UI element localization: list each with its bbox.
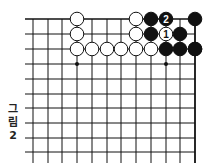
caption-char-1: 그 bbox=[6, 103, 20, 116]
white-stone: 1 bbox=[159, 27, 173, 41]
caption-char-3: 2 bbox=[6, 129, 20, 142]
white-stone bbox=[100, 42, 114, 56]
black-stone: 2 bbox=[159, 12, 173, 26]
stone-circle bbox=[129, 12, 143, 26]
white-stone bbox=[114, 42, 128, 56]
black-stone bbox=[144, 27, 158, 41]
move-number: 1 bbox=[163, 29, 169, 40]
stone-circle bbox=[70, 42, 84, 56]
star-point bbox=[164, 62, 168, 66]
stone-circle bbox=[85, 42, 99, 56]
white-stone bbox=[70, 27, 84, 41]
white-stone bbox=[70, 42, 84, 56]
stone-circle bbox=[173, 42, 187, 56]
figure-caption: 그 림 2 bbox=[6, 103, 20, 142]
white-stone bbox=[129, 27, 143, 41]
black-stone bbox=[159, 42, 173, 56]
move-number: 2 bbox=[163, 14, 169, 25]
stone-circle bbox=[173, 27, 187, 41]
black-stone bbox=[188, 42, 202, 56]
stone-circle bbox=[100, 42, 114, 56]
caption-char-2: 림 bbox=[6, 116, 20, 129]
white-stone bbox=[144, 42, 158, 56]
white-stone bbox=[129, 12, 143, 26]
black-stone bbox=[173, 27, 187, 41]
stone-circle bbox=[144, 27, 158, 41]
stone-circle bbox=[129, 42, 143, 56]
black-stone bbox=[173, 42, 187, 56]
white-stone bbox=[85, 42, 99, 56]
white-stone bbox=[129, 42, 143, 56]
stone-circle bbox=[70, 27, 84, 41]
stone-circle bbox=[114, 42, 128, 56]
star-point bbox=[75, 62, 79, 66]
stone-circle bbox=[144, 12, 158, 26]
stone-circle bbox=[159, 42, 173, 56]
stone-circle bbox=[144, 42, 158, 56]
stone-circle bbox=[188, 42, 202, 56]
white-stone bbox=[70, 12, 84, 26]
stone-circle bbox=[188, 12, 202, 26]
board-grid bbox=[25, 19, 195, 163]
stone-circle bbox=[129, 27, 143, 41]
black-stone bbox=[188, 12, 202, 26]
stone-circle bbox=[70, 12, 84, 26]
go-board: 21 bbox=[0, 0, 215, 168]
black-stone bbox=[144, 12, 158, 26]
